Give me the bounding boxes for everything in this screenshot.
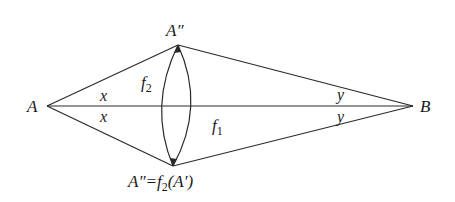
- label-B: B: [420, 97, 431, 116]
- edge-A-bottom: [47, 106, 173, 166]
- angle-y-lower: y: [335, 108, 345, 126]
- label-top-vertex: A″: [165, 21, 184, 40]
- edge-bottom-B: [173, 106, 413, 166]
- label-f1: f1: [212, 116, 223, 138]
- label-f2: f2: [141, 73, 152, 95]
- angle-x-lower: x: [99, 108, 107, 125]
- label-A: A: [26, 97, 38, 116]
- angle-x-upper: x: [99, 87, 107, 104]
- label-bottom-vertex: A″=f2(A′): [127, 172, 193, 194]
- edge-top-B: [178, 45, 413, 106]
- angle-y-upper: y: [335, 86, 345, 104]
- geometry-diagram: A B A″ f2 f1 x x y y A″=f2(A′): [0, 0, 455, 202]
- diagram-canvas: A B A″ f2 f1 x x y y A″=f2(A′): [0, 0, 455, 202]
- edge-A-top: [47, 45, 178, 106]
